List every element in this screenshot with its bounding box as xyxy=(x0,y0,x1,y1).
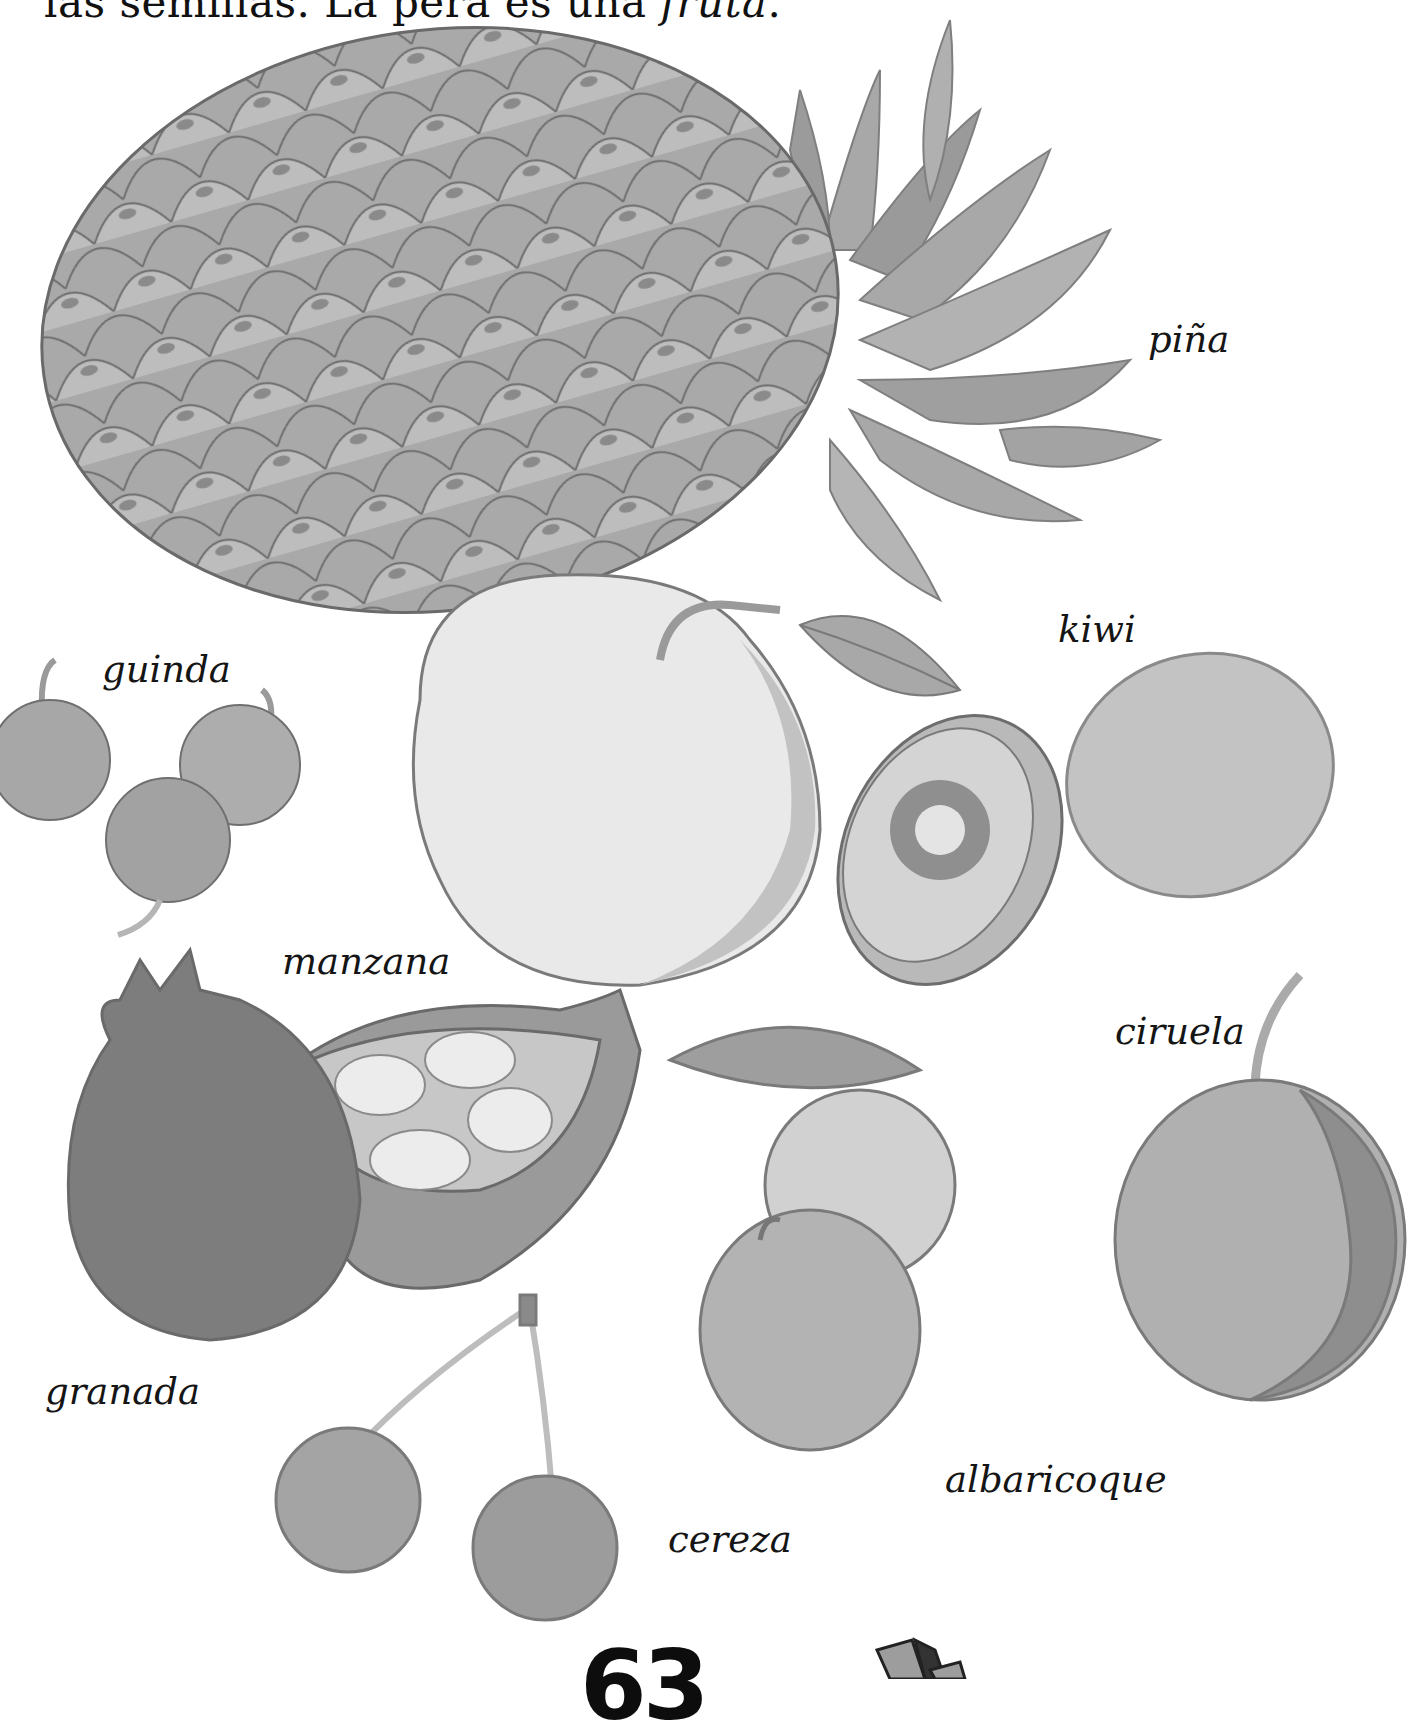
pineapple-illustration xyxy=(4,0,1160,663)
pineapple-crown xyxy=(790,20,1160,600)
sour-cherry-illustration xyxy=(0,660,300,935)
label-cereza: cereza xyxy=(668,1518,792,1561)
label-ciruela: ciruela xyxy=(1115,1010,1245,1053)
label-guinda: guinda xyxy=(102,648,231,691)
label-granada: granada xyxy=(45,1370,200,1413)
pineapple-body xyxy=(4,0,877,663)
pomegranate-illustration xyxy=(68,950,640,1340)
book-stack-icon xyxy=(877,1640,965,1679)
label-kiwi: kiwi xyxy=(1058,608,1136,651)
label-manzana: manzana xyxy=(282,940,450,983)
page-number: 63 xyxy=(580,1638,706,1724)
apricot-illustration xyxy=(670,1027,955,1450)
label-pina: piña xyxy=(1148,318,1229,361)
cherry-illustration xyxy=(276,1295,617,1620)
label-albaricoque: albaricoque xyxy=(945,1458,1167,1501)
